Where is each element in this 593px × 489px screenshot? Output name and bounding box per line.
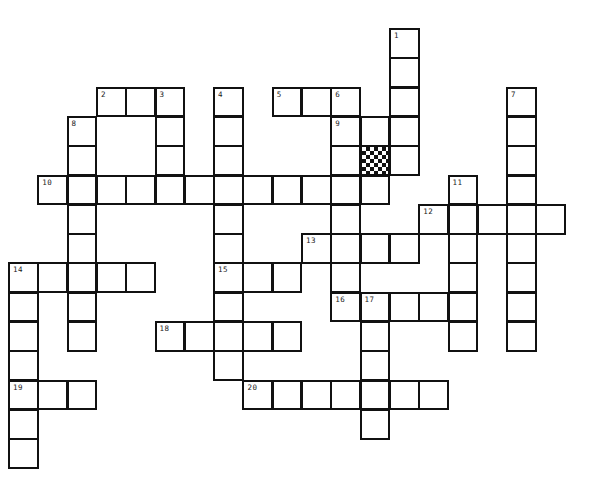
clue-cell-11[interactable]: 11 <box>448 175 479 206</box>
clue-cell-4[interactable]: 4 <box>213 87 244 118</box>
grid-cell[interactable] <box>506 145 537 176</box>
grid-cell[interactable] <box>506 175 537 206</box>
grid-cell[interactable] <box>213 292 244 323</box>
grid-cell[interactable] <box>184 321 215 352</box>
clue-cell-2[interactable]: 2 <box>96 87 127 118</box>
clue-cell-20[interactable]: 20 <box>242 380 273 411</box>
grid-cell[interactable] <box>8 438 39 469</box>
clue-cell-14[interactable]: 14 <box>8 262 39 293</box>
grid-cell[interactable] <box>242 175 273 206</box>
grid-cell[interactable] <box>301 87 332 118</box>
grid-cell[interactable] <box>67 145 98 176</box>
grid-cell[interactable] <box>213 204 244 235</box>
grid-cell[interactable] <box>213 350 244 381</box>
grid-cell[interactable] <box>8 409 39 440</box>
grid-cell[interactable] <box>360 380 391 411</box>
grid-cell[interactable] <box>418 380 449 411</box>
grid-cell[interactable] <box>242 262 273 293</box>
grid-cell[interactable] <box>8 321 39 352</box>
grid-cell[interactable] <box>330 380 361 411</box>
grid-cell[interactable] <box>506 262 537 293</box>
clue-cell-9[interactable]: 9 <box>330 116 361 147</box>
grid-cell[interactable] <box>330 175 361 206</box>
clue-cell-1[interactable]: 1 <box>389 28 420 59</box>
grid-cell[interactable] <box>389 145 420 176</box>
clue-cell-18[interactable]: 18 <box>155 321 186 352</box>
grid-cell[interactable] <box>360 233 391 264</box>
grid-cell[interactable] <box>67 262 98 293</box>
grid-cell[interactable] <box>272 380 303 411</box>
grid-cell[interactable] <box>448 321 479 352</box>
clue-cell-10[interactable]: 10 <box>37 175 68 206</box>
clue-cell-13[interactable]: 13 <box>301 233 332 264</box>
grid-cell[interactable] <box>389 57 420 88</box>
grid-cell[interactable] <box>418 292 449 323</box>
grid-cell[interactable] <box>506 321 537 352</box>
clue-cell-19[interactable]: 19 <box>8 380 39 411</box>
clue-cell-8[interactable]: 8 <box>67 116 98 147</box>
grid-cell[interactable] <box>125 262 156 293</box>
grid-cell[interactable] <box>506 233 537 264</box>
grid-cell[interactable] <box>213 233 244 264</box>
clue-cell-12[interactable]: 12 <box>418 204 449 235</box>
grid-cell[interactable] <box>67 233 98 264</box>
grid-cell[interactable] <box>330 145 361 176</box>
grid-cell[interactable] <box>125 175 156 206</box>
grid-cell[interactable] <box>272 321 303 352</box>
grid-cell[interactable] <box>272 262 303 293</box>
grid-cell[interactable] <box>37 262 68 293</box>
grid-cell[interactable] <box>360 321 391 352</box>
grid-cell[interactable] <box>389 233 420 264</box>
grid-cell[interactable] <box>360 175 391 206</box>
grid-cell[interactable] <box>96 175 127 206</box>
grid-cell[interactable] <box>448 233 479 264</box>
grid-cell[interactable] <box>155 145 186 176</box>
grid-cell[interactable] <box>125 87 156 118</box>
grid-cell[interactable] <box>213 175 244 206</box>
clue-cell-6[interactable]: 6 <box>330 87 361 118</box>
grid-cell[interactable] <box>301 380 332 411</box>
grid-cell[interactable] <box>213 321 244 352</box>
clue-cell-15[interactable]: 15 <box>213 262 244 293</box>
grid-cell[interactable] <box>448 262 479 293</box>
grid-cell[interactable] <box>330 262 361 293</box>
grid-cell[interactable] <box>477 204 508 235</box>
grid-cell[interactable] <box>184 175 215 206</box>
grid-cell[interactable] <box>155 116 186 147</box>
grid-cell[interactable] <box>67 292 98 323</box>
grid-cell[interactable] <box>389 292 420 323</box>
grid-cell[interactable] <box>8 292 39 323</box>
grid-cell[interactable] <box>213 116 244 147</box>
clue-cell-3[interactable]: 3 <box>155 87 186 118</box>
clue-cell-5[interactable]: 5 <box>272 87 303 118</box>
grid-cell[interactable] <box>506 116 537 147</box>
grid-cell[interactable] <box>67 204 98 235</box>
grid-cell[interactable] <box>535 204 566 235</box>
grid-cell[interactable] <box>360 350 391 381</box>
clue-cell-7[interactable]: 7 <box>506 87 537 118</box>
grid-cell[interactable] <box>330 204 361 235</box>
grid-cell[interactable] <box>242 321 273 352</box>
grid-cell[interactable] <box>506 292 537 323</box>
grid-cell[interactable] <box>330 233 361 264</box>
clue-cell-16[interactable]: 16 <box>330 292 361 323</box>
grid-cell[interactable] <box>213 145 244 176</box>
grid-cell[interactable] <box>155 175 186 206</box>
grid-cell[interactable] <box>448 292 479 323</box>
grid-cell[interactable] <box>37 380 68 411</box>
grid-cell[interactable] <box>272 175 303 206</box>
clue-cell-17[interactable]: 17 <box>360 292 391 323</box>
grid-cell[interactable] <box>448 204 479 235</box>
grid-cell[interactable] <box>96 262 127 293</box>
grid-cell[interactable] <box>389 380 420 411</box>
grid-cell[interactable] <box>301 175 332 206</box>
grid-cell[interactable] <box>360 116 391 147</box>
grid-cell[interactable] <box>8 350 39 381</box>
grid-cell[interactable] <box>506 204 537 235</box>
grid-cell[interactable] <box>360 409 391 440</box>
grid-cell[interactable] <box>67 380 98 411</box>
grid-cell[interactable] <box>389 87 420 118</box>
grid-cell[interactable] <box>67 175 98 206</box>
grid-cell[interactable] <box>389 116 420 147</box>
grid-cell[interactable] <box>67 321 98 352</box>
